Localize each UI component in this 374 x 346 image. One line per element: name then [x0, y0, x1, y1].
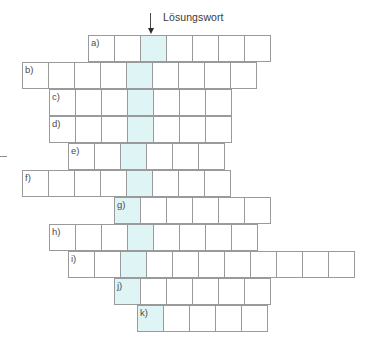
letter-cell[interactable]	[75, 224, 102, 251]
letter-cell[interactable]	[244, 35, 271, 62]
letter-cell[interactable]	[48, 170, 75, 197]
letter-cell[interactable]	[153, 224, 180, 251]
letter-cell[interactable]	[250, 251, 277, 278]
letter-cell[interactable]	[179, 224, 206, 251]
solution-word-label: Lösungswort	[163, 11, 224, 23]
letter-cell[interactable]	[172, 143, 199, 170]
letter-cell[interactable]: a)	[88, 35, 115, 62]
letter-cell[interactable]	[205, 89, 232, 116]
letter-cell[interactable]	[172, 251, 199, 278]
left-edge-tick	[0, 156, 7, 157]
row-label: k)	[140, 307, 148, 319]
crossword-row-c: c)	[49, 89, 232, 116]
letter-cell[interactable]	[198, 143, 225, 170]
letter-cell[interactable]	[204, 62, 231, 89]
letter-cell[interactable]	[189, 305, 216, 332]
letter-cell[interactable]	[152, 62, 179, 89]
solution-cell[interactable]: g)	[114, 197, 141, 224]
letter-cell[interactable]	[100, 62, 127, 89]
letter-cell[interactable]	[205, 116, 232, 143]
crossword-row-h: h)	[49, 224, 258, 251]
arrow-head-icon	[148, 28, 154, 34]
letter-cell[interactable]	[231, 224, 258, 251]
letter-cell[interactable]	[48, 62, 75, 89]
letter-cell[interactable]	[218, 197, 245, 224]
letter-cell[interactable]	[153, 89, 180, 116]
letter-cell[interactable]	[140, 278, 167, 305]
letter-cell[interactable]	[192, 278, 219, 305]
letter-cell[interactable]	[140, 197, 167, 224]
solution-cell[interactable]	[120, 143, 147, 170]
crossword-row-g: g)	[114, 197, 271, 224]
letter-cell[interactable]	[146, 143, 173, 170]
letter-cell[interactable]: h)	[49, 224, 76, 251]
crossword-row-b: b)	[22, 62, 257, 89]
crossword-canvas: Lösungswort a)b)c)d)e)f)g)h)i)j)k)	[0, 0, 374, 346]
row-label: e)	[71, 145, 79, 157]
row-label: g)	[117, 199, 125, 211]
letter-cell[interactable]	[74, 62, 101, 89]
crossword-row-j: j)	[114, 278, 271, 305]
letter-cell[interactable]: c)	[49, 89, 76, 116]
letter-cell[interactable]	[179, 89, 206, 116]
letter-cell[interactable]	[244, 197, 271, 224]
solution-cell[interactable]	[127, 224, 154, 251]
letter-cell[interactable]	[178, 62, 205, 89]
letter-cell[interactable]	[224, 251, 251, 278]
solution-cell[interactable]: k)	[137, 305, 164, 332]
letter-cell[interactable]	[218, 278, 245, 305]
letter-cell[interactable]: f)	[22, 170, 49, 197]
letter-cell[interactable]	[178, 170, 205, 197]
letter-cell[interactable]	[74, 170, 101, 197]
letter-cell[interactable]	[328, 251, 355, 278]
letter-cell[interactable]	[241, 305, 268, 332]
letter-cell[interactable]	[100, 170, 127, 197]
letter-cell[interactable]	[276, 251, 303, 278]
solution-cell[interactable]: j)	[114, 278, 141, 305]
letter-cell[interactable]	[94, 251, 121, 278]
letter-cell[interactable]	[75, 116, 102, 143]
crossword-row-i: i)	[68, 251, 355, 278]
letter-cell[interactable]	[198, 251, 225, 278]
letter-cell[interactable]	[205, 224, 232, 251]
letter-cell[interactable]	[94, 143, 121, 170]
letter-cell[interactable]	[163, 305, 190, 332]
letter-cell[interactable]	[192, 197, 219, 224]
letter-cell[interactable]	[101, 224, 128, 251]
letter-cell[interactable]: i)	[68, 251, 95, 278]
letter-cell[interactable]	[166, 35, 193, 62]
crossword-row-f: f)	[22, 170, 231, 197]
row-label: d)	[52, 118, 60, 130]
crossword-row-k: k)	[137, 305, 268, 332]
row-label: f)	[25, 172, 31, 184]
letter-cell[interactable]: b)	[22, 62, 49, 89]
letter-cell[interactable]	[302, 251, 329, 278]
letter-cell[interactable]	[192, 35, 219, 62]
solution-cell[interactable]	[127, 116, 154, 143]
letter-cell[interactable]: d)	[49, 116, 76, 143]
letter-cell[interactable]	[146, 251, 173, 278]
solution-cell[interactable]	[127, 89, 154, 116]
letter-cell[interactable]	[204, 170, 231, 197]
letter-cell[interactable]	[230, 62, 257, 89]
letter-cell[interactable]	[215, 305, 242, 332]
letter-cell[interactable]	[166, 197, 193, 224]
crossword-row-e: e)	[68, 143, 225, 170]
row-label: b)	[25, 64, 33, 76]
letter-cell[interactable]	[218, 35, 245, 62]
letter-cell[interactable]	[244, 278, 271, 305]
solution-cell[interactable]	[120, 251, 147, 278]
solution-cell[interactable]	[126, 170, 153, 197]
solution-cell[interactable]	[126, 62, 153, 89]
letter-cell[interactable]	[152, 170, 179, 197]
letter-cell[interactable]	[101, 89, 128, 116]
solution-cell[interactable]	[140, 35, 167, 62]
letter-cell[interactable]	[101, 116, 128, 143]
letter-cell[interactable]	[114, 35, 141, 62]
letter-cell[interactable]	[179, 116, 206, 143]
letter-cell[interactable]	[75, 89, 102, 116]
letter-cell[interactable]	[153, 116, 180, 143]
letter-cell[interactable]	[166, 278, 193, 305]
crossword-row-a: a)	[88, 35, 271, 62]
letter-cell[interactable]: e)	[68, 143, 95, 170]
